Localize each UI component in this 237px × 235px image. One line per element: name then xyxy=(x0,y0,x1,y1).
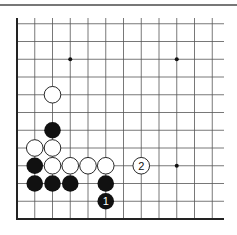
black-stone xyxy=(97,175,114,192)
move-number: 2 xyxy=(138,160,144,172)
star-point xyxy=(175,57,179,61)
white-stone xyxy=(80,157,97,174)
black-stone xyxy=(62,175,79,192)
star-point xyxy=(68,57,72,61)
white-stone xyxy=(26,140,43,157)
black-stone xyxy=(44,122,61,139)
move-number: 1 xyxy=(103,195,109,207)
star-point xyxy=(175,164,179,168)
white-stone xyxy=(44,140,61,157)
black-stone xyxy=(44,175,61,192)
white-stone xyxy=(44,86,61,103)
white-stone xyxy=(62,157,79,174)
go-board: 12 xyxy=(0,0,237,235)
black-stone xyxy=(26,175,43,192)
white-stone xyxy=(97,157,114,174)
white-stone xyxy=(44,157,61,174)
black-stone xyxy=(26,157,43,174)
